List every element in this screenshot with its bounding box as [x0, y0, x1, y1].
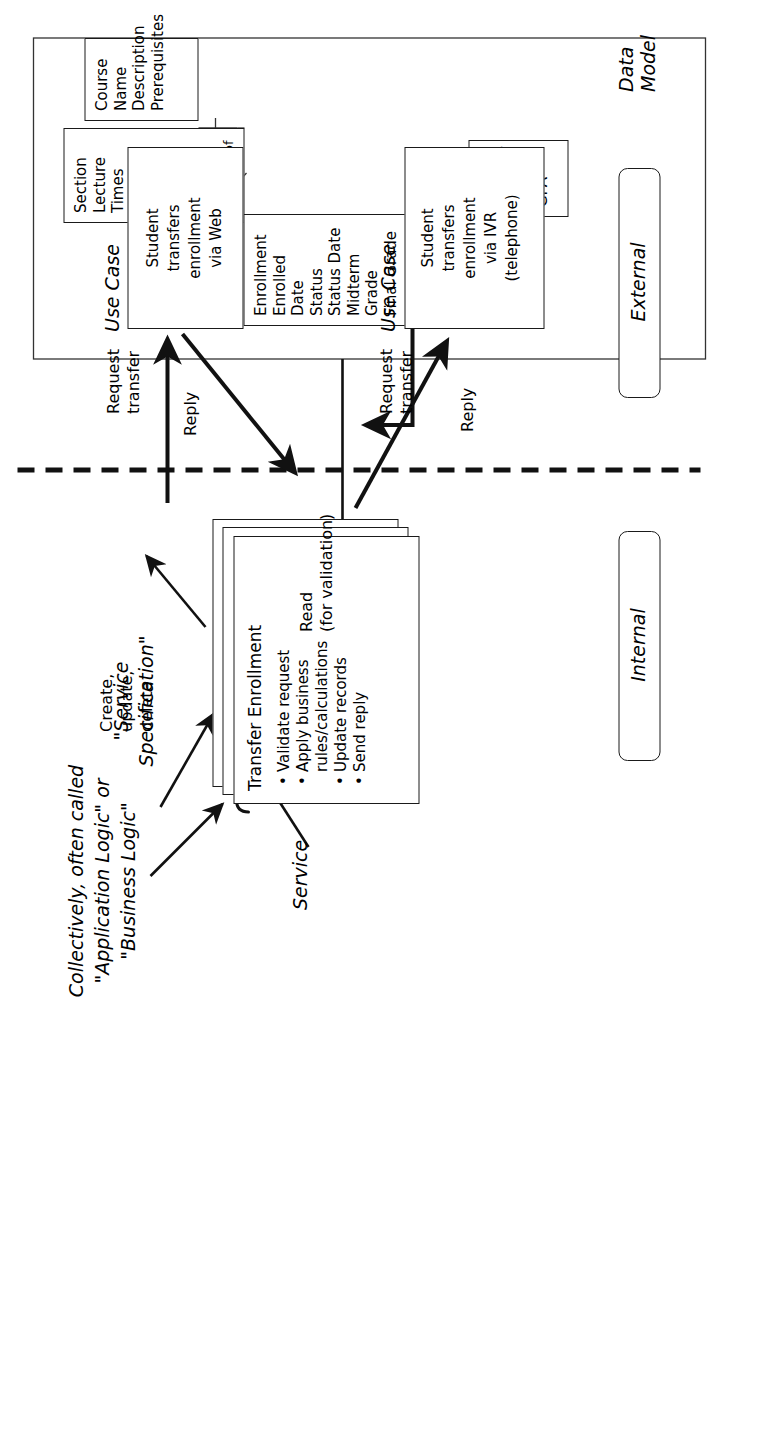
service-step: Validate request: [274, 641, 293, 785]
service-step: Send reply: [350, 641, 369, 785]
diagram-canvas: Course Name Description Prerequisites Se…: [0, 0, 761, 1432]
use-case-ivr-text: Student transfers enrollment via IVR (te…: [405, 148, 529, 328]
use-case-label-ivr: Use Case: [376, 244, 398, 332]
entity-course-fields: Course Name Description Prerequisites: [85, 39, 173, 120]
zone-internal: Internal: [618, 531, 660, 761]
service-step: Apply business: [293, 641, 312, 785]
zone-external: External: [618, 168, 660, 398]
zone-external-label: External: [626, 167, 648, 397]
service-step-continuation: rules/calculations: [312, 641, 331, 785]
use-case-ivr: Student transfers enrollment via IVR (te…: [404, 147, 544, 329]
flow-label-request-transfer-ivr: Request transfer: [376, 349, 416, 414]
diagram-viewport: Course Name Description Prerequisites Se…: [0, 0, 761, 1432]
annotation-service: Service: [288, 840, 310, 910]
zone-internal-label: Internal: [626, 530, 648, 760]
use-case-web-text: Student transfers enrollment via Web: [128, 148, 233, 328]
collectively-arrow: [150, 804, 222, 876]
data-model-title: Data Model: [614, 0, 658, 92]
flow-label-reply-ivr: Reply: [457, 388, 476, 432]
annotation-create-update-delete: Create, update, delete: [96, 671, 156, 732]
use-case-label-web: Use Case: [100, 244, 122, 332]
use-case-web: Student transfers enrollment via Web: [127, 147, 243, 329]
service-specification-arrow: [160, 714, 213, 807]
annotation-read-for-validation: Read (for validation): [296, 514, 336, 632]
service-step-list: Validate request Apply business rules/ca…: [274, 641, 369, 785]
flow-label-request-transfer-web: Request transfer: [103, 349, 143, 414]
entity-course: Course Name Description Prerequisites: [84, 38, 198, 121]
entity-enrollment: Enrollment Enrolled Date Status Status D…: [243, 214, 429, 326]
service-step: Update records: [331, 641, 350, 785]
service-title: Transfer Enrollment: [244, 625, 264, 791]
flow-label-reply-web: Reply: [180, 392, 199, 436]
